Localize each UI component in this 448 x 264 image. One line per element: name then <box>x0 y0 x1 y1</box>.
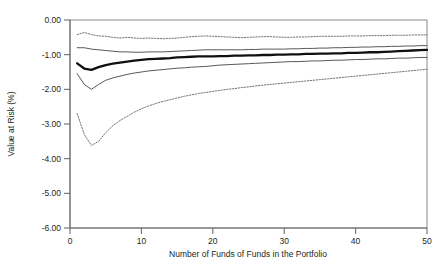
y-tick-label: -2.00 <box>42 84 62 94</box>
x-tick-label: 30 <box>279 236 289 246</box>
y-tick-label: -5.00 <box>42 188 62 198</box>
x-axis-title: Number of Funds of Funds in the Portfoli… <box>169 249 327 259</box>
x-tick-label: 20 <box>208 236 218 246</box>
y-tick-label: -4.00 <box>42 154 62 164</box>
y-tick-label: -1.00 <box>42 50 62 60</box>
x-tick-label: 50 <box>422 236 432 246</box>
y-tick-label: -6.00 <box>42 223 62 233</box>
value-at-risk-chart: 0.00 -1.00 -2.00 -3.00 -4.00 -5.00 -6.00… <box>0 0 448 264</box>
y-tick-label: -3.00 <box>42 119 62 129</box>
y-axis-title: Value at Risk (%) <box>6 91 16 156</box>
x-tick-label: 40 <box>351 236 361 246</box>
chart-background <box>0 0 448 264</box>
x-tick-label: 10 <box>137 236 147 246</box>
y-tick-label: 0.00 <box>44 15 61 25</box>
x-tick-label: 0 <box>68 236 73 246</box>
